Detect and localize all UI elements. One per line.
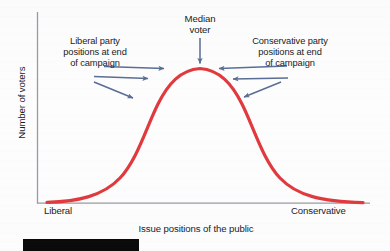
liberal-arrow-2 <box>94 77 148 79</box>
liberal-arrows-group <box>94 67 164 99</box>
annotation-conservative-party-positions: Conservative party positions at end of c… <box>232 36 348 69</box>
conservative-arrow-2 <box>233 78 288 79</box>
footer-black-bar <box>23 239 139 251</box>
voter-distribution-curve <box>47 69 363 203</box>
annotation-liberal-party-positions: Liberal party positions at end of campai… <box>47 36 143 69</box>
figure-canvas: Median voter Liberal party positions at … <box>0 0 390 251</box>
liberal-arrow-3 <box>94 82 133 98</box>
conservative-arrow-3 <box>244 82 281 97</box>
x-axis-tick-label-liberal: Liberal <box>44 205 72 216</box>
annotation-median-voter: Median voter <box>168 13 232 36</box>
x-axis-title: Issue positions of the public <box>96 223 296 234</box>
x-axis-tick-label-conservative: Conservative <box>291 205 346 216</box>
y-axis-title: Number of voters <box>16 43 27 163</box>
conservative-arrows-group <box>219 66 288 97</box>
